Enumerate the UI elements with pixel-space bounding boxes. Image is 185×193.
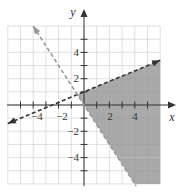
x-tick-label: 2 [107, 110, 113, 122]
y-tick-label: −2 [67, 125, 79, 137]
x-tick-label: −2 [56, 110, 68, 122]
x-tick-label: −4 [31, 110, 43, 122]
y-axis-arrow-icon [81, 9, 88, 17]
coordinate-plane: −4 −2 2 4 4 2 −2 −4 x y [0, 0, 185, 193]
y-tick-label: 2 [74, 72, 80, 84]
y-axis-label: y [69, 5, 76, 19]
arrow-icon [33, 26, 40, 34]
y-tick-label: −4 [67, 151, 79, 163]
x-tick-label: 4 [132, 110, 138, 122]
x-axis-arrow-icon [168, 102, 176, 109]
y-tick-label: 4 [74, 46, 80, 58]
x-axis-label: x [168, 110, 175, 124]
